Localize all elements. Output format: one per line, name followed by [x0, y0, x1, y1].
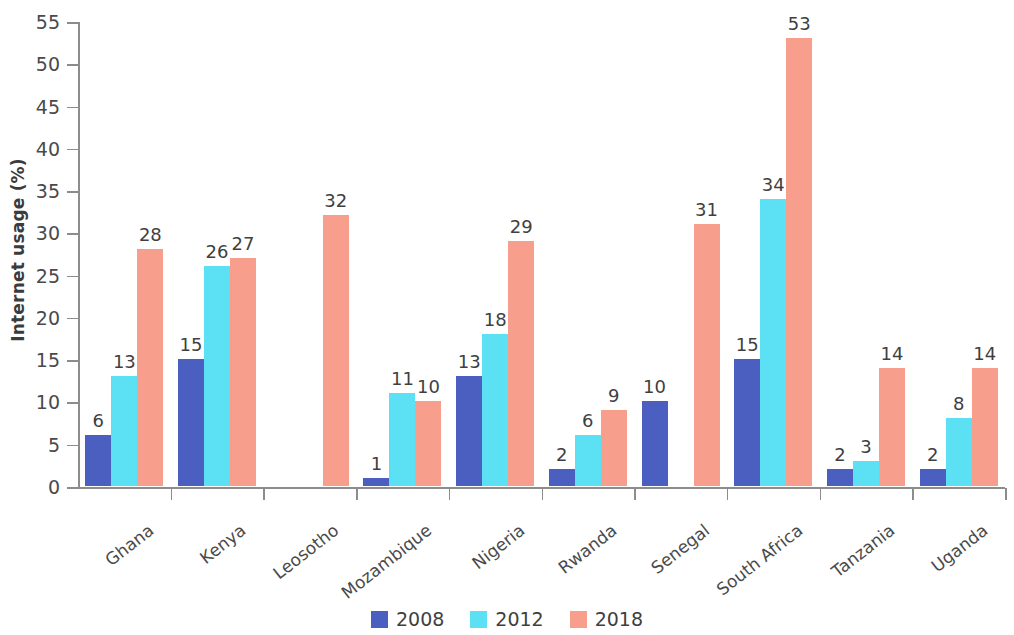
- x-axis-label: Leosotho: [269, 520, 342, 583]
- x-axis-label: Rwanda: [555, 520, 621, 578]
- x-axis-label: Tanzania: [828, 520, 899, 581]
- bar-value-label: 28: [139, 224, 162, 245]
- y-axis-tick: [67, 22, 78, 24]
- bar[interactable]: 34: [760, 199, 786, 486]
- bar[interactable]: 6: [85, 435, 111, 486]
- bar-group: 153453: [734, 22, 812, 488]
- chart-legend: 200820122018: [0, 608, 1014, 630]
- bar[interactable]: 13: [456, 376, 482, 486]
- y-axis-tick: [67, 64, 78, 66]
- y-axis-line: [78, 22, 80, 489]
- bar[interactable]: 2: [827, 469, 853, 486]
- bar-value-label: 18: [484, 309, 507, 330]
- bar-value-label: 11: [391, 368, 414, 389]
- bar-value-label: 1: [371, 453, 382, 474]
- y-axis-tick: [67, 318, 78, 320]
- legend-label: 2018: [595, 608, 643, 630]
- y-axis-tick: [67, 360, 78, 362]
- bar-value-label: 15: [736, 334, 759, 355]
- y-axis-tick: [67, 487, 78, 489]
- y-axis-tick-label: 45: [18, 96, 60, 118]
- bar[interactable]: 13: [111, 376, 137, 486]
- x-axis-tick: [912, 488, 914, 500]
- y-axis-tick: [67, 233, 78, 235]
- bar-value-label: 15: [180, 334, 203, 355]
- y-axis-tick: [67, 276, 78, 278]
- bar[interactable]: 15: [734, 359, 760, 486]
- x-axis-tick: [1005, 488, 1007, 500]
- bar[interactable]: 26: [204, 266, 230, 486]
- bar[interactable]: 1: [363, 478, 389, 486]
- x-axis-label: Uganda: [927, 520, 991, 576]
- legend-label: 2012: [495, 608, 543, 630]
- bar-chart: Internet usage (%) 051015202530354045505…: [0, 0, 1014, 635]
- bar[interactable]: 2: [549, 469, 575, 486]
- bar-group: 269: [549, 22, 627, 488]
- bar[interactable]: 29: [508, 241, 534, 486]
- legend-swatch-icon: [371, 611, 388, 628]
- bar-value-label: 32: [324, 190, 347, 211]
- bar-value-label: 31: [695, 199, 718, 220]
- bar-value-label: 34: [762, 174, 785, 195]
- bar-value-label: 9: [608, 385, 619, 406]
- bar[interactable]: 15: [178, 359, 204, 486]
- legend-item[interactable]: 2008: [371, 608, 444, 630]
- plot-area: 0510152025303540455055 61328152627321111…: [78, 22, 1005, 488]
- x-axis-label: Nigeria: [468, 520, 528, 573]
- bar-group: 11110: [363, 22, 441, 488]
- bar[interactable]: 53: [786, 38, 812, 486]
- bar[interactable]: 6: [575, 435, 601, 486]
- bar[interactable]: 10: [642, 401, 668, 486]
- bar[interactable]: 2: [920, 469, 946, 486]
- y-axis-tick: [67, 191, 78, 193]
- y-axis-tick-label: 30: [18, 222, 60, 244]
- x-axis-label: Ghana: [101, 520, 157, 570]
- bar-value-label: 27: [232, 233, 255, 254]
- y-axis-tick-label: 15: [18, 349, 60, 371]
- legend-swatch-icon: [470, 611, 487, 628]
- legend-label: 2008: [396, 608, 444, 630]
- bar-group: 152627: [178, 22, 256, 488]
- bar[interactable]: 18: [482, 334, 508, 486]
- bar[interactable]: 10: [415, 401, 441, 486]
- y-axis-tick-label: 55: [18, 11, 60, 33]
- y-axis-tick-label: 10: [18, 391, 60, 413]
- bar-group: 61328: [85, 22, 163, 488]
- legend-item[interactable]: 2012: [470, 608, 543, 630]
- bar[interactable]: 14: [879, 368, 905, 486]
- y-axis-tick: [67, 445, 78, 447]
- x-axis-tick: [356, 488, 358, 500]
- bar[interactable]: 9: [601, 410, 627, 486]
- bar-value-label: 26: [206, 241, 229, 262]
- bar-value-label: 13: [458, 351, 481, 372]
- bar[interactable]: 11: [389, 393, 415, 486]
- bar[interactable]: 3: [853, 461, 879, 486]
- x-axis-label: Kenya: [196, 520, 249, 568]
- bar[interactable]: 27: [230, 258, 256, 486]
- bar-value-label: 14: [973, 343, 996, 364]
- legend-item[interactable]: 2018: [570, 608, 643, 630]
- x-axis-tick: [820, 488, 822, 500]
- x-axis-tick: [542, 488, 544, 500]
- bar[interactable]: 31: [694, 224, 720, 486]
- bar[interactable]: 8: [946, 418, 972, 486]
- bar-value-label: 53: [788, 13, 811, 34]
- bar-value-label: 6: [582, 410, 593, 431]
- y-axis-tick: [67, 149, 78, 151]
- x-axis-tick: [263, 488, 265, 500]
- y-axis-tick-label: 40: [18, 138, 60, 160]
- y-axis-tick-label: 25: [18, 265, 60, 287]
- bar[interactable]: 32: [323, 215, 349, 486]
- bar[interactable]: 28: [137, 249, 163, 486]
- bar-value-label: 10: [417, 376, 440, 397]
- bar-value-label: 2: [927, 444, 938, 465]
- bar-value-label: 29: [510, 216, 533, 237]
- bar-value-label: 6: [93, 410, 104, 431]
- bar[interactable]: 14: [972, 368, 998, 486]
- x-axis-tick: [449, 488, 451, 500]
- bar-group: 131829: [456, 22, 534, 488]
- y-axis-tick-label: 20: [18, 307, 60, 329]
- legend-swatch-icon: [570, 611, 587, 628]
- bar-group: 32: [271, 22, 349, 488]
- bar-value-label: 3: [860, 436, 871, 457]
